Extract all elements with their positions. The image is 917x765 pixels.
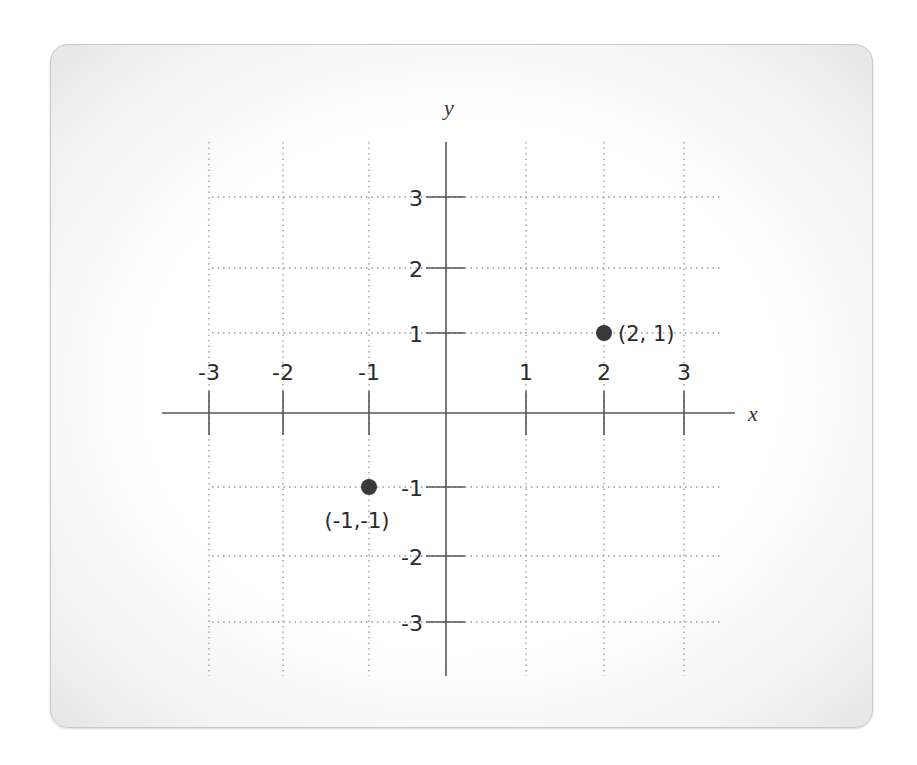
point-label: (2, 1)	[618, 322, 674, 346]
x-tick-label: 3	[677, 360, 691, 385]
data-point	[596, 325, 612, 341]
x-axis-title: x	[747, 401, 758, 426]
y-tick-label: 1	[409, 322, 423, 347]
grid-lines	[209, 142, 720, 676]
x-tick-label: -3	[198, 360, 220, 385]
tick-marks: -3-2-1123321-1-2-3	[198, 186, 691, 636]
point-label: (-1,-1)	[325, 509, 390, 533]
y-tick-label: 2	[409, 257, 423, 282]
coordinate-plane: x y -3-2-1123321-1-2-3 (2, 1)(-1,-1)	[0, 0, 917, 765]
x-tick-label: 1	[519, 360, 533, 385]
y-tick-label: -2	[401, 545, 423, 570]
x-tick-label: -1	[358, 360, 380, 385]
axes: x y	[162, 95, 758, 676]
y-axis-title: y	[442, 95, 454, 120]
x-tick-label: 2	[597, 360, 611, 385]
data-point	[361, 479, 377, 495]
y-tick-label: -3	[401, 611, 423, 636]
data-points: (2, 1)(-1,-1)	[325, 322, 675, 533]
x-tick-label: -2	[272, 360, 294, 385]
y-tick-label: -1	[401, 476, 423, 501]
y-tick-label: 3	[409, 186, 423, 211]
